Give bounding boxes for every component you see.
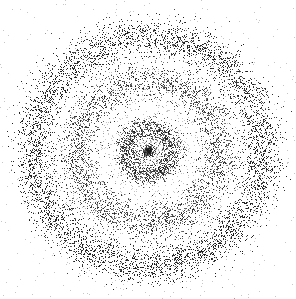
stipple-rings-image <box>0 0 296 299</box>
rings-canvas <box>0 0 296 299</box>
